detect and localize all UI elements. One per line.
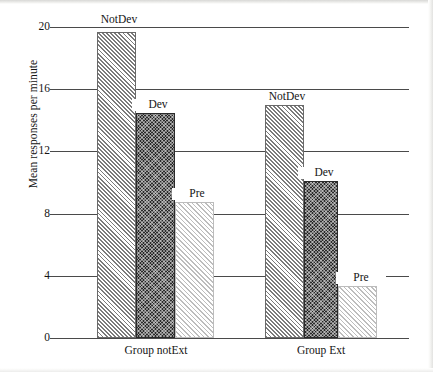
bar-notext-pre[interactable]: [175, 202, 214, 338]
axis-baseline-0: [64, 338, 409, 339]
y-tick-label-4: 4: [20, 270, 50, 282]
bar-notext-notdev[interactable]: [97, 32, 136, 338]
bar-ext-dev[interactable]: [304, 181, 338, 338]
figure-canvas: Mean responses per minute 20 16 12 8 4 0…: [0, 0, 433, 372]
gridline-20: [64, 27, 409, 28]
x-axis-tick-labels: Group notExt Group Ext: [64, 345, 409, 361]
scan-edge-top: [0, 0, 433, 4]
y-tick-label-12: 12: [20, 145, 50, 157]
y-tick-label-0: 0: [20, 332, 50, 344]
y-tick-label-20: 20: [20, 21, 50, 33]
bar-notext-dev[interactable]: [136, 113, 175, 339]
x-tick-label-group-notext: Group notExt: [81, 345, 231, 357]
bar-label-notext-notdev: NotDev: [89, 14, 149, 26]
y-tick-label-16: 16: [20, 83, 50, 95]
bar-label-notext-dev: Dev: [132, 99, 184, 111]
bar-label-ext-dev: Dev: [298, 167, 350, 179]
bar-label-notext-pre: Pre: [172, 188, 222, 200]
bar-label-ext-pre: Pre: [336, 272, 386, 284]
x-tick-label-group-ext: Group Ext: [246, 345, 396, 357]
y-axis-tick-labels: 20 16 12 8 4 0: [14, 27, 50, 338]
bar-ext-notdev[interactable]: [265, 105, 304, 338]
scan-edge-right: [428, 0, 433, 372]
y-tick-label-8: 8: [20, 208, 50, 220]
plot-area: NotDev Dev Pre NotDev Dev Pre: [64, 27, 409, 338]
bar-label-ext-notdev: NotDev: [257, 91, 317, 103]
bar-ext-pre[interactable]: [338, 286, 377, 338]
scan-edge-bottom: [0, 368, 433, 372]
